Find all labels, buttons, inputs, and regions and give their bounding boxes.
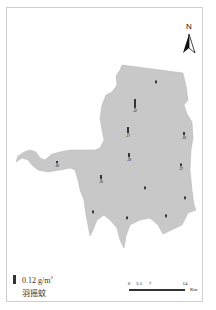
sampling-site-site-southeast[interactable] <box>165 215 167 218</box>
north-label: N <box>181 22 197 31</box>
study-area-polygon[interactable] <box>16 65 196 248</box>
site-point-icon <box>184 198 186 200</box>
sampling-site-site-south-center[interactable] <box>144 187 146 190</box>
scale-tick-1: 3.5 <box>136 281 142 286</box>
density-bar <box>127 127 129 132</box>
scale-tick-3: 14 <box>183 281 188 286</box>
site-label: J3 <box>181 136 186 140</box>
sampling-site-site-north[interactable] <box>155 81 157 84</box>
legend-bar-symbol <box>13 275 16 284</box>
scale-unit: Km <box>190 287 198 292</box>
scale-seg-4 <box>150 289 185 291</box>
density-bar <box>134 99 136 107</box>
site-label: J2 <box>132 109 137 113</box>
site-point-icon <box>165 216 167 218</box>
scale-seg-3 <box>140 289 150 291</box>
site-label: J9 <box>126 158 131 162</box>
scale-tick-2: 7 <box>149 281 152 286</box>
scale-tick-0: 0 <box>128 281 131 286</box>
legend-species-name: 羽摇蚊 <box>22 287 46 298</box>
site-point-icon <box>144 188 146 190</box>
site-point-icon <box>92 212 94 214</box>
north-arrow: N <box>181 22 197 56</box>
site-label: J6 <box>54 164 59 168</box>
sampling-site-site-south-lobe[interactable] <box>126 217 128 220</box>
sampling-site-site-southwest-lobe[interactable] <box>92 211 94 214</box>
scale-bar: 0 3.5 7 14 Km <box>127 281 197 297</box>
site-label: J5 <box>98 180 103 184</box>
site-point-icon <box>155 82 157 84</box>
site-point-icon <box>126 218 128 220</box>
site-label: J1 <box>178 167 183 171</box>
sampling-site-site-southeast-edge[interactable] <box>184 197 186 200</box>
legend-value: 0.12 g/m2 <box>22 275 53 285</box>
